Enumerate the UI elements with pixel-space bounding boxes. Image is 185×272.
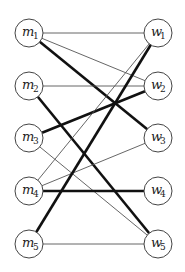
node-m2: m2 — [15, 72, 43, 100]
node-subscript: 5 — [33, 242, 39, 252]
node-m4: m4 — [15, 177, 43, 205]
node-subscript: 2 — [160, 84, 166, 94]
node-m1: m1 — [15, 19, 43, 47]
bipartite-graph: m1m2m3m4m5w1w2w3w4w5 — [0, 0, 185, 272]
node-m3: m3 — [15, 124, 43, 152]
node-subscript: 3 — [33, 136, 39, 146]
node-subscript: 1 — [33, 31, 39, 41]
edge-m1-w2 — [29, 33, 158, 86]
node-w2: w2 — [144, 72, 172, 100]
node-subscript: 4 — [33, 189, 39, 199]
edge-m5-w1 — [29, 33, 158, 244]
node-subscript: 3 — [160, 136, 166, 146]
node-w5: w5 — [144, 230, 172, 258]
node-subscript: 2 — [33, 84, 39, 94]
node-m5: m5 — [15, 230, 43, 258]
node-subscript: 5 — [160, 242, 166, 252]
node-w3: w3 — [144, 124, 172, 152]
node-subscript: 4 — [160, 189, 166, 199]
node-w1: w1 — [144, 19, 172, 47]
node-subscript: 1 — [160, 31, 166, 41]
edges-layer — [29, 33, 158, 244]
edge-m1-w3 — [29, 33, 158, 138]
edge-m4-w1 — [29, 33, 158, 191]
node-w4: w4 — [144, 177, 172, 205]
edge-m2-w5 — [29, 86, 158, 244]
edge-m4-w3 — [29, 138, 158, 191]
